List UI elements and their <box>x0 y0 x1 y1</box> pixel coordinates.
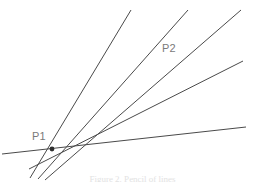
diagram-background <box>0 0 265 182</box>
point-label-p2: P2 <box>162 43 176 54</box>
vanishing-point-marker <box>50 147 55 152</box>
point-label-p1: P1 <box>32 131 46 142</box>
pencil-of-lines-svg <box>0 0 265 182</box>
figure-diagram: P1 P2 Figure 2. Pencil of lines <box>0 0 265 182</box>
figure-caption: Figure 2. Pencil of lines <box>0 174 265 182</box>
